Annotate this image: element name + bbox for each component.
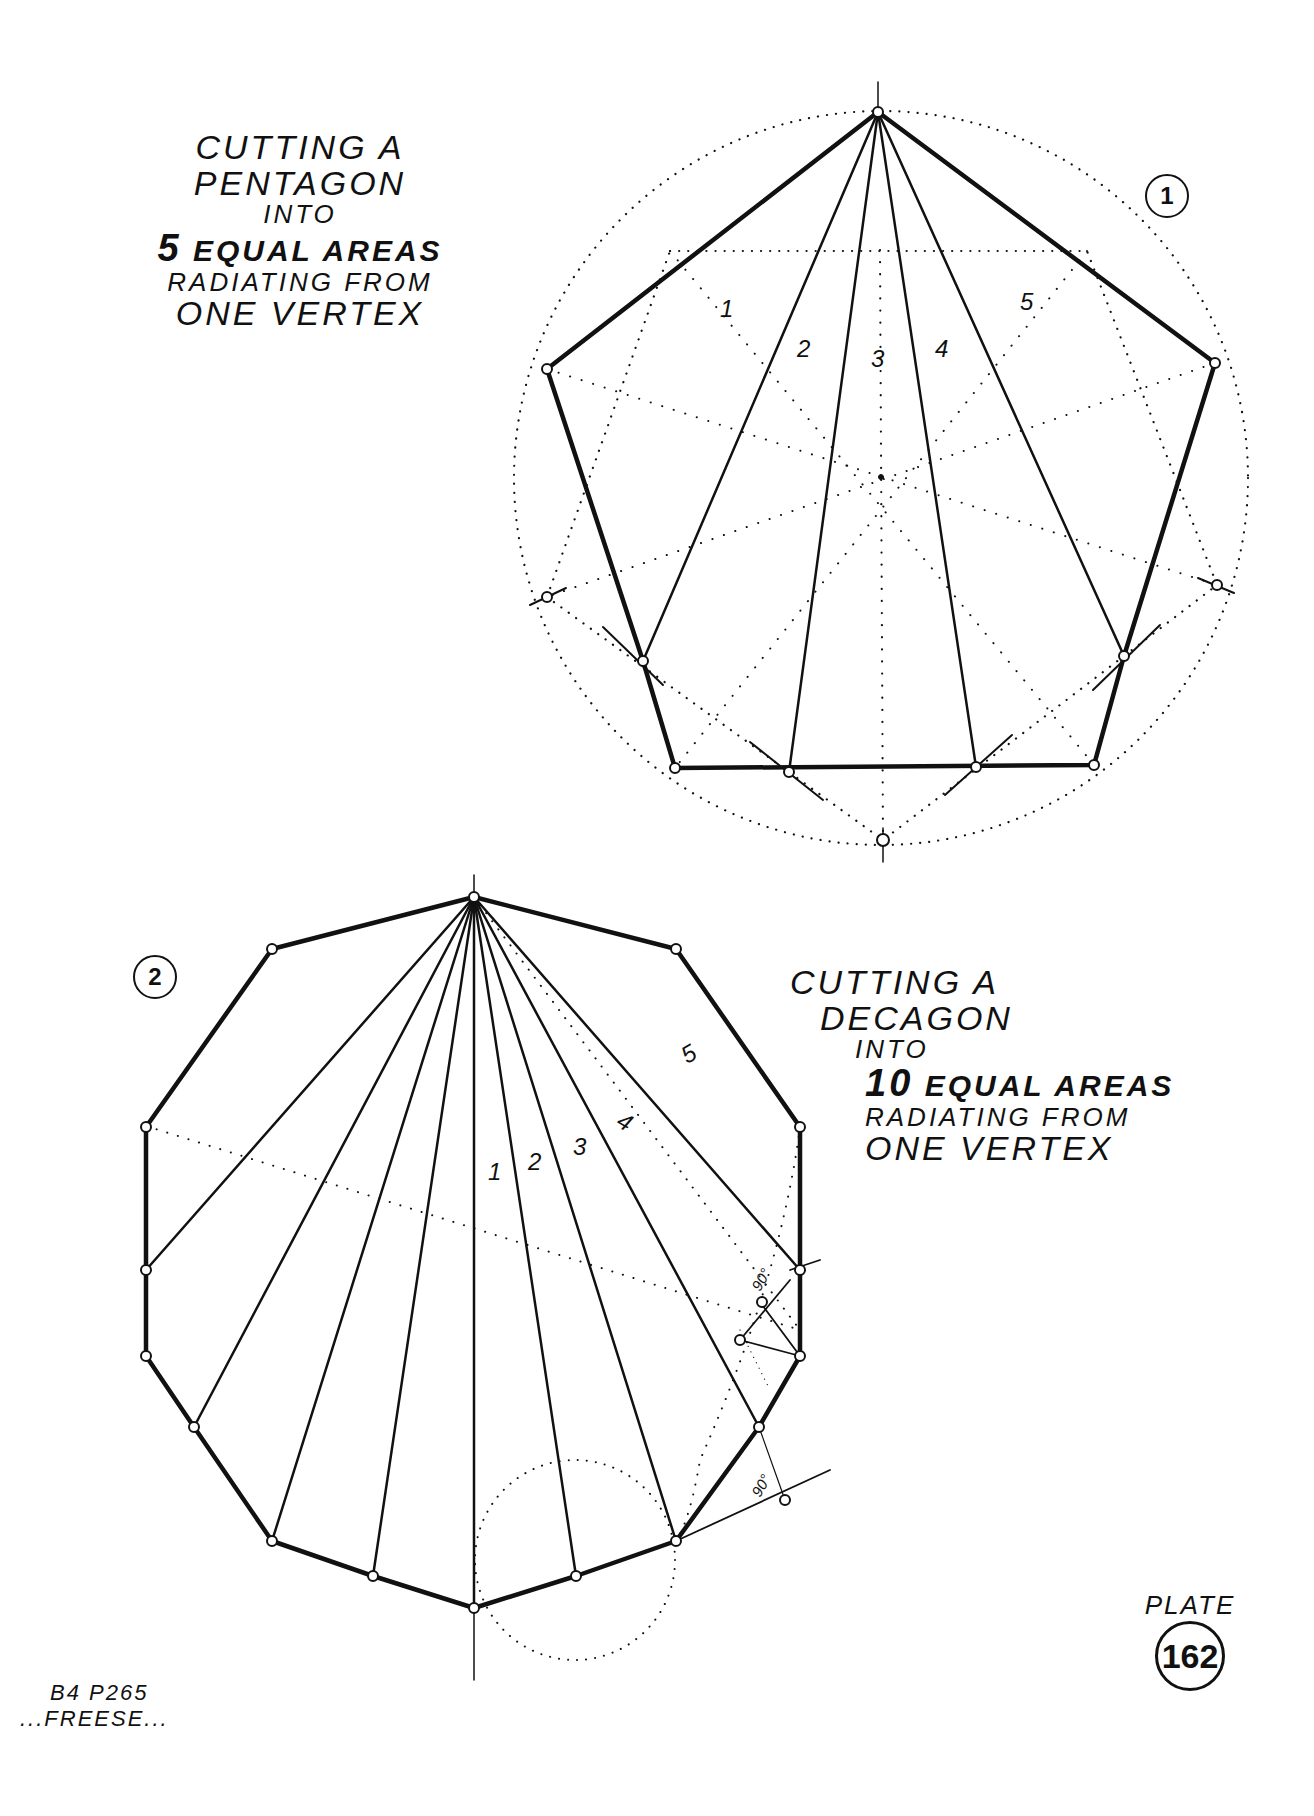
decagon-title-line1: CUTTING A — [780, 965, 1220, 1001]
pentagon-title-line3: INTO — [90, 201, 510, 228]
pentagon-title-line4: 5 EQUAL AREAS — [90, 229, 510, 269]
decagon-area-label-2: 2 — [528, 1148, 541, 1176]
plate-label: PLATE 162 — [1130, 1590, 1250, 1691]
pentagon-title-line1: CUTTING A — [90, 130, 510, 166]
angle-mark-2: 90° — [748, 1471, 774, 1499]
figure-number-1: 1 — [1145, 174, 1189, 218]
plate-number: 162 — [1155, 1621, 1225, 1691]
figure-number-2: 2 — [133, 955, 177, 999]
decagon-title-line4-text: EQUAL AREAS — [925, 1069, 1175, 1102]
pentagon-area-label-4: 4 — [935, 335, 948, 363]
decagon-area-label-3: 3 — [573, 1133, 586, 1161]
decagon-area-label-1: 1 — [488, 1158, 501, 1186]
angle-mark-1: 90° — [748, 1265, 774, 1293]
pentagon-title-line6: ONE VERTEX — [90, 296, 510, 332]
pentagon-title-line4-text: EQUAL AREAS — [193, 234, 443, 267]
decagon-title-line2: DECAGON — [780, 1001, 1220, 1037]
decagon-title: CUTTING A DECAGON INTO 10 EQUAL AREAS RA… — [780, 965, 1220, 1167]
pentagon-title-line5: RADIATING FROM — [90, 269, 510, 296]
pentagon-title: CUTTING A PENTAGON INTO 5 EQUAL AREAS RA… — [90, 130, 510, 332]
credit: B4 P265 ...FREESE... — [20, 1680, 169, 1733]
pentagon-count: 5 — [157, 227, 181, 269]
decagon-figure — [141, 875, 830, 1680]
pentagon-title-line2: PENTAGON — [90, 166, 510, 202]
credit-author: ...FREESE... — [20, 1706, 169, 1732]
decagon-title-line6: ONE VERTEX — [780, 1131, 1220, 1167]
decagon-title-line5: RADIATING FROM — [780, 1104, 1220, 1131]
pentagon-area-label-2: 2 — [797, 335, 810, 363]
pentagon-figure — [514, 82, 1248, 862]
pentagon-area-label-1: 1 — [720, 295, 733, 323]
plate-word: PLATE — [1130, 1590, 1250, 1621]
decagon-count: 10 — [865, 1062, 913, 1104]
decagon-title-line3: INTO — [780, 1036, 1220, 1063]
credit-reference: B4 P265 — [20, 1680, 169, 1706]
pentagon-area-label-5: 5 — [1020, 288, 1033, 316]
decagon-title-line4: 10 EQUAL AREAS — [780, 1064, 1220, 1104]
pentagon-area-label-3: 3 — [871, 345, 884, 373]
